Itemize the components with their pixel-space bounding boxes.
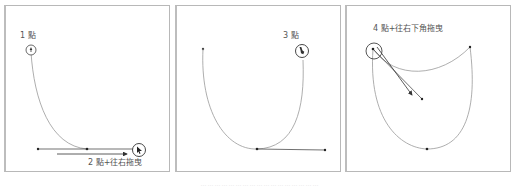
- panel-1-drawing: 1 點 2 點+往右拖曳: [20, 30, 146, 167]
- panel-3-drawing: 4 點+往右下角拖曳: [366, 23, 472, 150]
- drag-cursor-icon: [133, 144, 146, 157]
- anchor-point: [469, 46, 471, 48]
- click-cursor-icon: [296, 45, 309, 58]
- pen-tool-diagram: 1 點 2 點+往右拖曳 3 點 4 點+往右下角拖曳: [0, 0, 516, 190]
- direction-handle: [257, 149, 325, 150]
- click-cursor-icon: [26, 45, 36, 55]
- step-4-label: 4 點+往右下角拖曳: [373, 23, 443, 33]
- handle-point: [37, 148, 39, 150]
- panel-2-drawing: 3 點: [202, 30, 326, 151]
- drag-arrow-icon: [377, 47, 412, 95]
- anchor-point: [426, 148, 429, 151]
- handle-point: [324, 149, 326, 151]
- anchor-point: [86, 148, 89, 151]
- curve-segment: [31, 52, 87, 149]
- curve-segment-top: [373, 47, 470, 71]
- curve-segment: [203, 49, 303, 149]
- step-3-label: 3 點: [283, 30, 299, 40]
- step-2-label: 2 點+往右拖曳: [88, 157, 142, 167]
- figure-caption: ……………………………………………: [150, 180, 370, 188]
- anchor-point: [256, 148, 259, 151]
- handle-point: [421, 98, 423, 100]
- step-1-label: 1 點: [20, 30, 36, 40]
